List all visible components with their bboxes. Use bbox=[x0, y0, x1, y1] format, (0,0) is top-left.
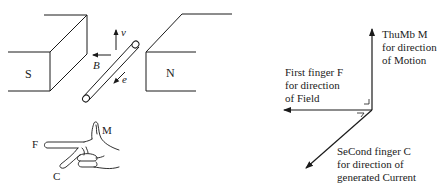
south-pole-label: S bbox=[25, 68, 32, 80]
velocity-label: v bbox=[121, 26, 126, 38]
right-angle-mark bbox=[364, 99, 369, 104]
second-finger-axis-caption: SeCond finger C for direction of generat… bbox=[337, 145, 416, 184]
current-label: e bbox=[122, 73, 127, 85]
north-pole-label: N bbox=[166, 67, 175, 79]
conductor-rod bbox=[81, 40, 140, 104]
first-finger-axis-caption: First finger F for direction of Field bbox=[285, 66, 343, 105]
second-finger-caption-line1: SeCond finger C bbox=[337, 145, 416, 158]
south-magnet bbox=[8, 15, 87, 91]
first-finger-caption-line3: of Field bbox=[285, 92, 343, 105]
first-finger-label: F bbox=[32, 138, 38, 150]
right-angle-mark-2 bbox=[357, 113, 364, 117]
second-finger-caption-line3: generated Current bbox=[337, 171, 416, 184]
second-finger-label: C bbox=[53, 170, 60, 182]
first-finger-caption-line1: First finger F bbox=[285, 66, 343, 79]
second-finger-caption-line2: for direction of bbox=[337, 158, 416, 171]
thumb-caption-line1: ThuMb M bbox=[382, 28, 437, 41]
thumb-axis-caption: ThuMb M for direction of Motion bbox=[382, 28, 437, 67]
field-label: B bbox=[93, 59, 100, 71]
thumb-label: M bbox=[102, 124, 112, 136]
thumb-caption-line2: for direction bbox=[382, 41, 437, 54]
thumb-caption-line3: of Motion bbox=[382, 54, 437, 67]
north-magnet bbox=[146, 14, 232, 91]
first-finger-caption-line2: for direction bbox=[285, 79, 343, 92]
